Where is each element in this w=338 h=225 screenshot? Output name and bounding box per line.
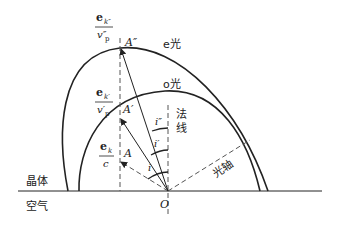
air-label: 空气 (26, 199, 48, 213)
normal-label-2: 线 (176, 121, 187, 135)
e-wave-label: e光 (163, 37, 181, 51)
svg-text:p: p (105, 35, 110, 43)
crystal-label: 晶体 (26, 174, 48, 188)
optic-axis-line (168, 140, 250, 191)
point-A-prime-label: A′ (122, 103, 134, 116)
angle-i-label: i (148, 162, 151, 173)
point-A-label: A (123, 147, 132, 160)
fraction-incident: e k c (99, 140, 114, 169)
point-A-double-prime-label: A″ (124, 36, 138, 49)
origin-label: O (160, 198, 169, 211)
fraction-e-wave: e k″ v″ p (95, 11, 113, 43)
angle-arc-i-prime (151, 150, 168, 155)
svg-text:k″: k″ (104, 18, 111, 26)
birefringence-diagram: 晶体 空气 e光 o光 法 线 光轴 O A A′ A″ i i′ i″ e k… (0, 0, 338, 225)
svg-text:c: c (103, 158, 109, 169)
normal-label-1: 法 (176, 107, 187, 121)
svg-text:k′: k′ (104, 93, 110, 101)
svg-text:e: e (96, 86, 103, 99)
e-wave-surface (63, 48, 268, 191)
angle-arc-i-double-prime (152, 128, 168, 131)
svg-text:e: e (100, 140, 107, 153)
o-wave-label: o光 (163, 77, 181, 91)
svg-text:p: p (105, 110, 110, 118)
arrow-to-A (121, 162, 168, 191)
optic-axis-label: 光轴 (210, 156, 236, 180)
angle-i-double-prime-label: i″ (155, 116, 162, 127)
svg-text:k: k (108, 147, 112, 155)
svg-text:e: e (96, 11, 103, 24)
angle-i-prime-label: i′ (154, 138, 160, 149)
